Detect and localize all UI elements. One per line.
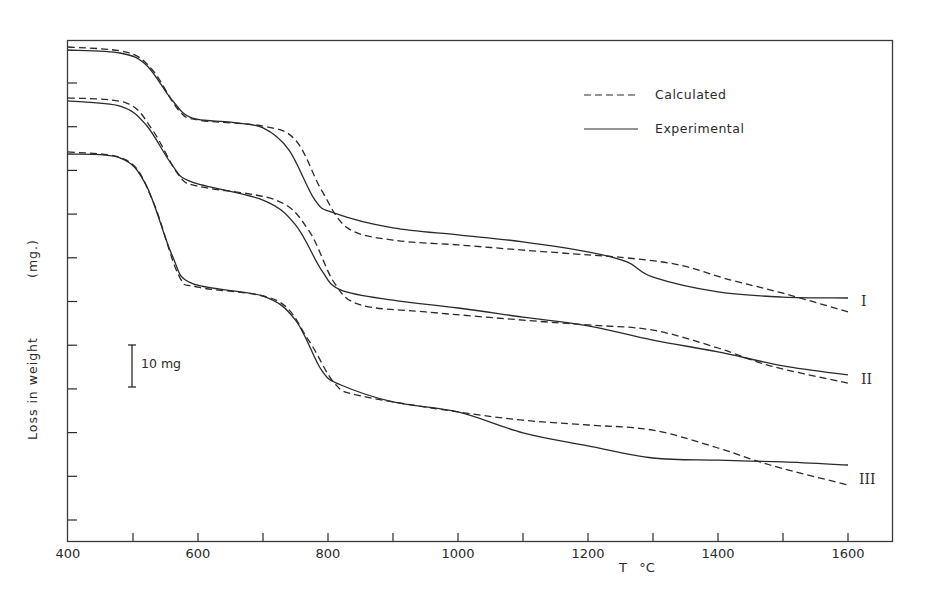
y-axis-ticks [68,83,77,520]
x-tick-label: 1600 [831,546,864,561]
y-axis-title-unit: (mg.) [25,239,40,278]
x-tick-label: 1400 [701,546,734,561]
legend-calculated-label: Calculated [655,87,726,102]
x-axis-ticks [133,533,848,541]
curve-label-II: II [861,371,872,387]
x-tick-label: 400 [56,546,81,561]
y-axis-title: Loss in weight (mg.) [25,239,40,440]
x-tick-label: 800 [316,546,341,561]
x-axis-title: T °C [618,560,655,575]
plot-frame [68,41,893,542]
x-tick-label: 1200 [571,546,604,561]
curve-II-calculated-line [68,98,848,383]
legend: Calculated Experimental [584,87,744,136]
x-tick-label: 1000 [441,546,474,561]
scale-bar: 10 mg [128,345,181,387]
curve-II-experimental-line [68,101,848,375]
x-axis-tick-labels: 4006008001000120014001600 [56,546,865,561]
curve-label-I: I [861,293,867,309]
tga-chart: 4006008001000120014001600 T °C Loss in w… [0,0,932,602]
curve-I-experimental-line [68,50,848,298]
y-axis-title-main: Loss in weight [25,337,40,440]
data-series [68,47,848,485]
x-tick-label: 600 [186,546,211,561]
curve-III-experimental-line [68,154,848,465]
legend-experimental-label: Experimental [655,121,744,136]
curve-label-III: III [859,471,876,487]
scale-bar-label: 10 mg [141,356,181,371]
curve-III-calculated-line [68,152,848,485]
